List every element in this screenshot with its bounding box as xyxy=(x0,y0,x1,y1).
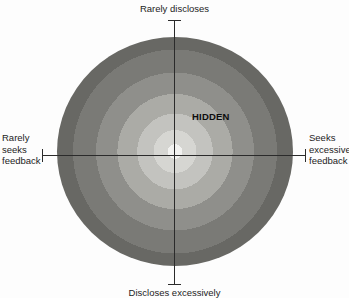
tick-top xyxy=(168,20,181,21)
tick-bottom xyxy=(168,284,181,285)
concentric-ring-disc xyxy=(57,37,293,266)
ring-gradient xyxy=(57,37,293,266)
axis-label-bottom: Discloses excessively xyxy=(0,287,349,298)
johari-radial-diagram: Rarely discloses Discloses excessively R… xyxy=(0,0,349,298)
horizontal-axis-line xyxy=(42,155,306,156)
tick-left xyxy=(42,149,43,162)
axis-label-left: Rarely seeks feedback xyxy=(2,132,40,167)
axis-label-right: Seeks excessive feedback xyxy=(309,132,349,167)
region-label-hidden: HIDDEN xyxy=(192,111,230,122)
vertical-axis-line xyxy=(174,20,175,284)
axis-label-top: Rarely discloses xyxy=(0,3,349,15)
tick-right xyxy=(305,149,306,162)
